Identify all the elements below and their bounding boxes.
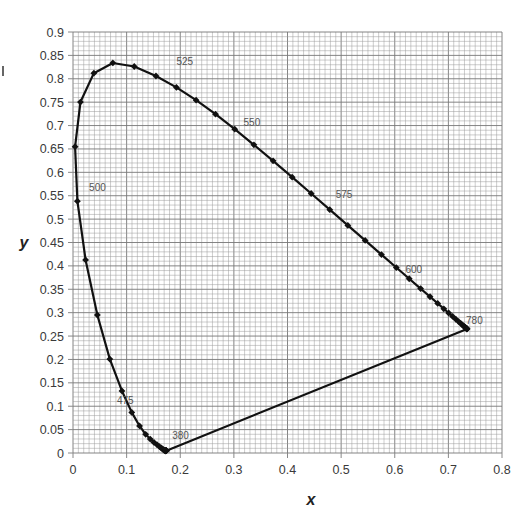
wavelength-label: 500: [89, 182, 106, 193]
wavelength-label: 525: [176, 56, 193, 67]
y-tick-label: 0.2: [47, 353, 64, 367]
wavelength-label: 550: [244, 117, 261, 128]
y-tick-label: 0.05: [40, 423, 64, 437]
wavelength-label: 475: [117, 395, 134, 406]
y-tick-label: 0.8: [47, 72, 64, 86]
x-tick-label: 0.7: [440, 463, 457, 477]
y-tick-label: 0.85: [40, 49, 64, 63]
y-tick-label: 0.25: [40, 330, 64, 344]
y-tick-label: 0: [57, 447, 64, 461]
y-tick-label: 0.6: [47, 166, 64, 180]
y-tick-label: 0.45: [40, 236, 64, 250]
x-tick-label: 0.2: [172, 463, 189, 477]
y-tick-label: 0.65: [40, 142, 64, 156]
x-tick-label: 0.3: [225, 463, 242, 477]
x-tick-label: 0.5: [332, 463, 349, 477]
data-point-marker: [77, 99, 84, 106]
y-axis-title: y: [19, 234, 30, 251]
wavelength-label: 780: [466, 315, 483, 326]
wavelength-label: 575: [336, 189, 353, 200]
data-point-marker: [82, 257, 89, 264]
x-axis-ticks: 00.10.20.30.40.50.60.70.8: [70, 453, 511, 477]
y-tick-label: 0.7: [47, 119, 64, 133]
y-tick-label: 0.35: [40, 283, 64, 297]
data-point-marker: [74, 198, 81, 205]
y-tick-label: 0.55: [40, 189, 64, 203]
x-axis-title: x: [306, 491, 317, 508]
y-tick-label: 0.4: [47, 259, 64, 273]
y-tick-label: 0.3: [47, 306, 64, 320]
wavelength-label: 380: [172, 430, 189, 441]
y-tick-label: 0.15: [40, 376, 64, 390]
x-tick-label: 0: [70, 463, 77, 477]
y-tick-label: 0.1: [47, 400, 64, 414]
x-tick-label: 0.8: [493, 463, 510, 477]
x-tick-label: 0.1: [118, 463, 135, 477]
plot-grid: [73, 32, 502, 453]
y-tick-label: 0.5: [47, 213, 64, 227]
chromaticity-chart: 00.10.20.30.40.50.60.70.8 00.050.10.150.…: [0, 0, 526, 527]
x-tick-label: 0.6: [386, 463, 403, 477]
y-axis-ticks: 00.050.10.150.20.250.30.350.40.450.50.55…: [40, 26, 73, 461]
locus-line: [75, 63, 467, 451]
y-tick-label: 0.9: [47, 26, 64, 40]
data-point-marker: [119, 388, 126, 395]
data-point-marker: [106, 356, 113, 363]
x-tick-label: 0.4: [279, 463, 296, 477]
wavelength-label: 600: [405, 264, 422, 275]
y-tick-label: 0.75: [40, 96, 64, 110]
